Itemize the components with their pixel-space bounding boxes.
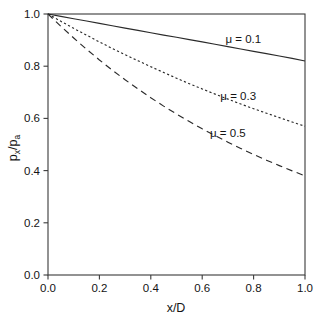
- x-tick-label: 0.0: [40, 282, 56, 294]
- chart-svg: 0.00.20.40.60.81.0 0.00.20.40.60.81.0 μ …: [0, 0, 324, 321]
- y-axis-title-sub-a: a: [12, 135, 22, 140]
- y-tick-label: 0.0: [24, 269, 40, 281]
- x-tick-label: 0.6: [194, 282, 210, 294]
- series-label-mu-0-1: μ = 0.1: [225, 33, 261, 45]
- x-axis-title: x/D: [167, 301, 186, 315]
- y-tick-label: 1.0: [24, 8, 40, 20]
- x-tick-label: 1.0: [297, 282, 313, 294]
- y-axis-title-base: p: [6, 154, 20, 161]
- y-tick-label: 0.4: [24, 165, 41, 177]
- x-tick-label: 0.8: [246, 282, 262, 294]
- chart-figure: 0.00.20.40.60.81.0 0.00.20.40.60.81.0 μ …: [0, 0, 324, 321]
- series-label-mu-0-3: μ = 0.3: [220, 90, 256, 102]
- series-label-mu-0-5: μ = 0.5: [210, 127, 246, 139]
- y-tick-label: 0.8: [24, 60, 40, 72]
- chart-background: [0, 0, 324, 321]
- x-tick-label: 0.2: [91, 282, 107, 294]
- y-tick-label: 0.6: [24, 112, 40, 124]
- y-tick-label: 0.2: [24, 217, 40, 229]
- x-tick-label: 0.4: [143, 282, 160, 294]
- y-axis-title-slash: /p: [6, 140, 20, 150]
